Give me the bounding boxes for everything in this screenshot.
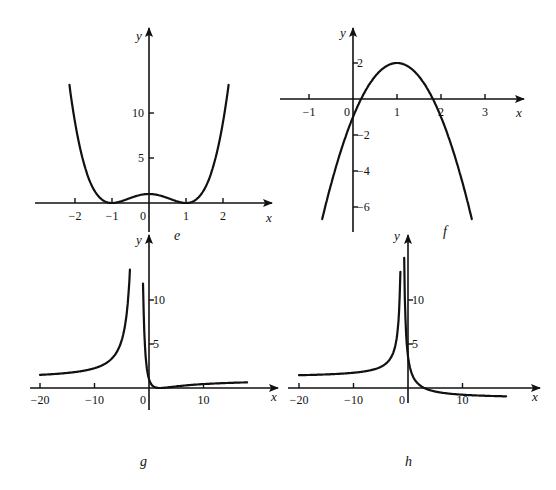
x-tick-label: −20 [31, 393, 50, 407]
x-tick-label: −10 [85, 393, 104, 407]
x-tick-label: 1 [183, 209, 189, 223]
x-axis-label: x [531, 389, 538, 404]
panel-label: e [174, 228, 180, 243]
panel-f: −101232−2−4−6xyf [280, 25, 524, 239]
x-tick-label: −1 [106, 209, 119, 223]
x-axis-label: x [270, 389, 277, 404]
y-tick-label: 10 [132, 106, 144, 120]
curve-h [299, 272, 400, 375]
x-tick-label: 0 [140, 209, 146, 223]
x-tick-label: 10 [198, 393, 210, 407]
panel-h: −20−10010510xyh [288, 228, 540, 469]
x-tick-label: 1 [394, 105, 400, 119]
y-axis-label: y [134, 232, 142, 247]
y-tick-label: 2 [357, 56, 363, 70]
panel-label: g [140, 454, 147, 469]
curve-g [40, 270, 130, 375]
x-tick-label: 2 [220, 209, 226, 223]
panel-label: h [405, 454, 412, 469]
figure: −2−1012510xye−101232−2−4−6xyf−20−1001051… [0, 0, 556, 490]
x-axis-label: x [265, 210, 272, 225]
y-tick-label: 10 [412, 293, 424, 307]
panel-e: −2−1012510xye [35, 28, 272, 243]
x-tick-label: 0 [399, 393, 405, 407]
y-tick-label: 5 [138, 151, 144, 165]
x-tick-label: −10 [344, 393, 363, 407]
x-tick-label: 3 [482, 105, 488, 119]
y-axis-label: y [134, 28, 142, 43]
curve-f [322, 63, 472, 219]
y-tick-label: 5 [153, 337, 159, 351]
y-tick-label: −2 [357, 128, 370, 142]
panel-g: −20−10010510xyg [30, 232, 278, 469]
x-tick-label: −1 [303, 105, 316, 119]
x-axis-label: x [515, 105, 522, 120]
x-tick-label: −20 [290, 393, 309, 407]
y-axis-label: y [338, 25, 346, 40]
y-tick-label: −4 [357, 164, 370, 178]
x-tick-label: −2 [69, 209, 82, 223]
curve-h-right [404, 258, 506, 397]
y-axis-label: y [392, 228, 400, 243]
panel-label: f [443, 224, 449, 239]
y-tick-label: 10 [153, 293, 165, 307]
y-tick-label: −6 [357, 200, 370, 214]
x-tick-label: 0 [344, 105, 350, 119]
x-tick-label: 0 [140, 393, 146, 407]
y-tick-label: 5 [412, 337, 418, 351]
